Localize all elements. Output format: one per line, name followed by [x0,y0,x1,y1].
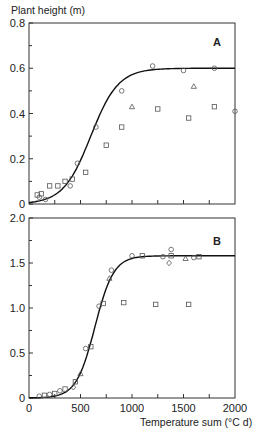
data-point-square [153,302,157,306]
panel-a: 00.20.40.60.8A [10,17,238,210]
x-tick-label: 2000 [223,402,247,414]
y-tick-label: 0 [19,198,25,210]
data-point-square [63,387,67,391]
data-point-square [156,107,160,111]
fit-curve [29,256,235,398]
data-point-square [56,184,60,188]
panel-label: A [213,36,221,48]
data-point-square [122,300,126,304]
chart-figure: Plant height (m) 00.20.40.60.8A 00.51.01… [0,0,257,433]
data-point-circle [161,254,166,259]
y-tick-label: 1.0 [10,302,25,314]
data-point-circle [83,346,88,351]
data-point-square [104,143,108,147]
data-point-circle [150,64,155,69]
data-point-square [212,105,216,109]
fit-curve [29,68,235,202]
data-point-circle [47,392,52,397]
data-point-circle [68,184,73,189]
x-axis-label: Temperature sum (°C d) [140,416,252,428]
data-point-circle [109,268,114,273]
panel-label: B [213,235,221,247]
y-tick-label: 0 [19,392,25,404]
y-axis-label: Plant height (m) [11,4,85,16]
data-point-triangle [183,256,188,261]
x-tick-label: 0 [26,402,32,414]
data-point-triangle [129,104,134,109]
y-tick-label: 0.6 [10,62,25,74]
y-tick-label: 2.0 [10,212,25,224]
data-point-square [47,184,51,188]
data-point-triangle [191,84,196,89]
data-point-square [120,125,124,129]
y-tick-label: 1.5 [10,257,25,269]
data-point-square [186,116,190,120]
x-tick-label: 500 [71,402,89,414]
panel-b: 00.51.01.52.00500100015002000B [10,212,248,414]
data-point-circle [169,247,174,252]
data-point-diamond [167,260,172,266]
data-point-square [83,170,87,174]
y-tick-label: 0.4 [10,108,25,120]
x-tick-label: 1000 [120,402,144,414]
y-tick-label: 0.2 [10,153,25,165]
y-tick-label: 0.8 [10,17,25,29]
data-point-circle [130,254,135,259]
y-tick-label: 0.5 [10,347,25,359]
plot-frame [29,218,235,398]
plot-frame [29,23,235,204]
data-point-square [186,302,190,306]
data-point-circle [58,389,63,394]
x-tick-label: 1500 [171,402,195,414]
data-point-circle [119,89,124,94]
